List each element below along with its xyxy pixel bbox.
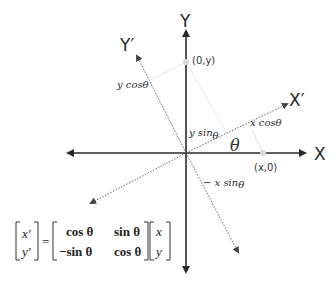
projection-lines	[151, 62, 263, 153]
matrix-cell-0-1: sin θ	[114, 224, 140, 239]
rhs-bracket-left	[150, 222, 154, 260]
label-y-sin-theta: y sinθ	[188, 127, 219, 141]
lhs-y-prime: y'	[20, 244, 31, 259]
projection-x-to-xprime	[252, 130, 263, 153]
point-0-y-label: (0,y)	[192, 55, 215, 66]
svg-text:y cosθ: y cosθ	[116, 79, 149, 90]
projection-y-to-yprime	[151, 62, 186, 80]
rhs-bracket-right	[166, 222, 170, 260]
label-y-cos-theta: y cosθ	[116, 79, 149, 90]
svg-text:y sinθ: y sinθ	[188, 127, 219, 141]
matrix-bracket-right	[144, 222, 148, 260]
matrix-cell-1-0: −sin θ	[59, 244, 93, 259]
matrix-cell-0-0: cos θ	[66, 224, 94, 239]
equals-sign: =	[42, 234, 49, 249]
point-x-0-label: (x,0)	[254, 162, 277, 173]
rhs-x: x	[155, 224, 162, 239]
rotation-diagram: Y X X′ Y′ (0,y) (x,0) y cosθ y sinθ x co…	[0, 0, 336, 286]
lhs-bracket-right	[34, 222, 38, 260]
label-x-cos-theta: x cosθ	[250, 117, 282, 128]
label-neg-x-sin-theta: − x sinθ	[203, 177, 244, 190]
y-prime-axis-negative	[186, 153, 238, 252]
y-axis-label: Y	[179, 11, 191, 31]
y-prime-axis	[137, 56, 186, 153]
x-prime-axis-negative	[91, 153, 186, 203]
matrix-bracket-left	[53, 222, 57, 260]
matrix-cell-1-1: cos θ	[114, 244, 142, 259]
x-prime-axis-label: X′	[289, 90, 305, 110]
rotation-equation: x' y' = cos θ sin θ −sin θ cos θ x y	[16, 222, 170, 260]
y-prime-axis-label: Y′	[119, 35, 134, 55]
lhs-x-prime: x'	[21, 226, 31, 241]
svg-text:− x sinθ: − x sinθ	[203, 177, 244, 190]
x-axis-label: X	[314, 144, 326, 164]
lhs-bracket-left	[16, 222, 20, 260]
rhs-y: y	[154, 244, 162, 259]
point-0-y-marker	[183, 59, 189, 65]
projection-y-to-xprime	[186, 62, 228, 135]
point-x-0-marker	[260, 150, 266, 156]
svg-text:x cosθ: x cosθ	[250, 117, 282, 128]
angle-theta-label: θ	[230, 136, 240, 155]
